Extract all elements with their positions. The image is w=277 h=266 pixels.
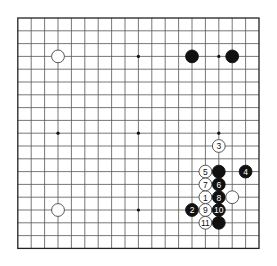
star-point [56,132,59,135]
move-number-label: 3 [216,141,221,151]
white-stone-move-5: 5 [199,165,212,178]
move-number-label: 7 [203,180,208,190]
black-stone [212,165,225,178]
black-stone [212,216,225,229]
white-stone-move-11: 11 [199,216,212,229]
white-stone-circle [226,191,239,204]
star-point [217,132,220,135]
white-stone-move-3: 3 [212,140,225,153]
black-stone-circle [186,50,199,63]
black-stone-circle [212,165,225,178]
move-number-label: 9 [203,205,208,215]
move-number-label: 5 [203,167,208,177]
white-stone-move-9: 9 [199,204,212,217]
star-point [137,208,140,211]
white-stone-move-7: 7 [199,178,212,191]
move-number-label: 1 [203,193,208,203]
white-stone-circle [52,204,65,217]
black-stone [186,50,199,63]
white-stone-move-1: 1 [199,191,212,204]
star-point [217,55,220,58]
black-stone-move-8: 8 [212,191,225,204]
black-stone-move-2: 2 [186,204,199,217]
go-board[interactable]: 1234567891011 [0,0,277,266]
white-stone-circle [52,50,65,63]
black-stone-move-6: 6 [212,178,225,191]
move-number-label: 11 [201,218,210,228]
black-stone-move-4: 4 [239,165,252,178]
move-number-label: 4 [243,167,248,177]
white-stone [52,204,65,217]
white-stone [52,50,65,63]
move-number-label: 6 [216,180,221,190]
move-number-label: 2 [190,205,195,215]
black-stone [226,50,239,63]
star-point [137,132,140,135]
star-point [137,55,140,58]
black-stone-circle [226,50,239,63]
move-number-label: 10 [214,205,224,215]
white-stone [226,191,239,204]
move-number-label: 8 [216,193,221,203]
black-stone-move-10: 10 [212,204,225,217]
black-stone-circle [212,216,225,229]
